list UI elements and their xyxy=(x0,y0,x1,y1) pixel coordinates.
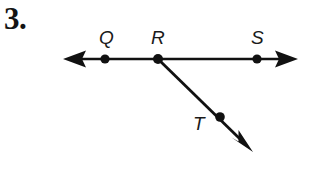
point-dot-q xyxy=(100,54,109,63)
point-dot-r xyxy=(153,54,163,64)
point-label-t: T xyxy=(193,114,205,133)
point-dot-t xyxy=(215,112,225,122)
geometry-figure-panel: 3. Q R S T xyxy=(0,0,316,196)
point-label-s: S xyxy=(251,28,264,47)
point-label-q: Q xyxy=(99,28,114,47)
point-label-r: R xyxy=(151,28,165,47)
point-dot-s xyxy=(252,54,261,63)
